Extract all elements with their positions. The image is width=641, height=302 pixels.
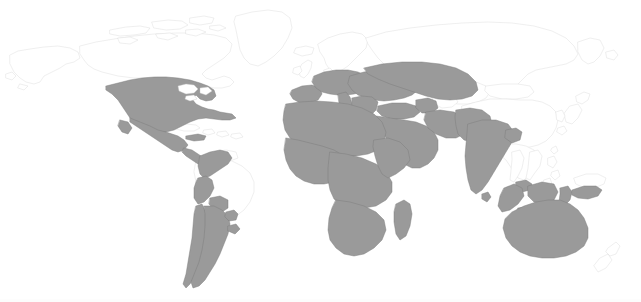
world-map-svg — [0, 0, 641, 302]
country-turkey — [377, 103, 420, 119]
world-map-container — [0, 0, 641, 302]
country-mongolia — [485, 84, 534, 99]
